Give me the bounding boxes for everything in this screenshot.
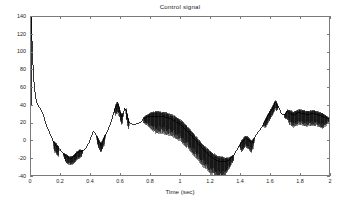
x-tick-label: 0.2 [50,178,70,184]
y-tick-label: 40 [2,102,26,108]
chatter-bands [31,17,329,175]
y-tick-mark [30,34,33,35]
x-tick-label: 0.8 [140,178,160,184]
x-tick-mark [300,173,301,176]
x-tick-mark [270,173,271,176]
chatter-strokes [53,100,328,175]
x-tick-label: 1.4 [230,178,250,184]
x-tick-label: 1.8 [290,178,310,184]
y-tick-label: 100 [2,48,26,54]
x-tick-label: 0 [20,178,40,184]
y-tick-label: 60 [2,84,26,90]
x-axis-label: Time (sec) [30,188,330,195]
x-tick-mark [30,173,31,176]
y-tick-mark-right [327,34,330,35]
y-tick-mark-right [327,123,330,124]
figure-container: Control signal -40-20020406080100120140 … [0,0,347,202]
plot-area [30,16,330,176]
x-tick-label: 1 [170,178,190,184]
x-tick-mark-top [180,16,181,19]
y-tick-mark-right [327,140,330,141]
y-tick-label: 120 [2,31,26,37]
y-tick-mark [30,158,33,159]
y-tick-label: -20 [2,155,26,161]
y-tick-mark-right [327,52,330,53]
y-tick-label: 0 [2,137,26,143]
y-tick-mark [30,176,33,177]
y-tick-label: 80 [2,66,26,72]
y-tick-mark [30,105,33,106]
x-tick-mark [240,173,241,176]
chart-title: Control signal [30,3,330,10]
x-tick-label: 0.4 [80,178,100,184]
y-tick-mark [30,123,33,124]
x-tick-mark-top [270,16,271,19]
x-tick-mark-top [330,16,331,19]
y-tick-mark-right [327,87,330,88]
x-tick-mark [120,173,121,176]
x-tick-mark-top [240,16,241,19]
x-tick-label: 0.6 [110,178,130,184]
y-tick-label: 140 [2,13,26,19]
y-tick-mark [30,69,33,70]
signal-plot [31,17,329,175]
y-tick-mark-right [327,69,330,70]
y-tick-mark [30,140,33,141]
x-tick-mark [150,173,151,176]
x-tick-mark [330,173,331,176]
x-tick-mark [60,173,61,176]
x-tick-mark [210,173,211,176]
y-tick-mark-right [327,158,330,159]
x-tick-mark-top [150,16,151,19]
y-tick-mark-right [327,105,330,106]
x-tick-mark-top [30,16,31,19]
x-tick-mark-top [210,16,211,19]
y-tick-mark [30,52,33,53]
x-tick-label: 1.2 [200,178,220,184]
y-tick-label: 20 [2,119,26,125]
x-tick-mark-top [60,16,61,19]
x-tick-mark [90,173,91,176]
y-tick-mark-right [327,176,330,177]
y-tick-mark [30,87,33,88]
x-tick-mark-top [300,16,301,19]
x-tick-mark-top [90,16,91,19]
x-tick-label: 1.6 [260,178,280,184]
x-tick-mark [180,173,181,176]
x-tick-label: 2 [320,178,340,184]
x-tick-mark-top [120,16,121,19]
